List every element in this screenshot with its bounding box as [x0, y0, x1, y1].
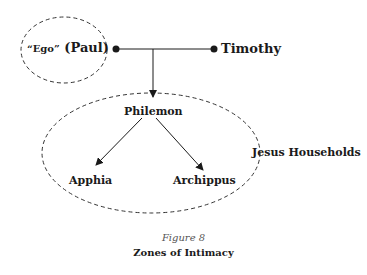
- philemon-apphia-arrow: [96, 118, 142, 165]
- diagram-canvas: “Ego” (Paul) Timothy Philemon Apphia Arc…: [0, 0, 367, 275]
- archippus-label: Archippus: [173, 175, 236, 186]
- figure-number: Figure 8: [0, 233, 367, 243]
- jesus-households-label: Jesus Households: [252, 147, 361, 158]
- philemon-label: Philemon: [124, 106, 183, 117]
- ego-quote-label: “Ego”: [27, 43, 60, 54]
- ego-paul-label: “Ego” (Paul): [27, 41, 109, 54]
- timothy-label: Timothy: [221, 42, 281, 55]
- timothy-node-dot: [211, 46, 218, 53]
- apphia-label: Apphia: [69, 175, 112, 186]
- paul-node-dot: [113, 46, 120, 53]
- paul-name-label: (Paul): [64, 40, 109, 55]
- philemon-archippus-arrow: [156, 118, 203, 170]
- figure-title: Zones of Intimacy: [0, 248, 367, 258]
